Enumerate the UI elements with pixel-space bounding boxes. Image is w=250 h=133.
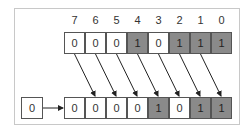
top-bit-2: 1 [169, 32, 190, 54]
bit-label-2: 2 [169, 13, 190, 27]
shift-in-bit: 0 [21, 97, 43, 119]
top-bit-5: 0 [106, 32, 127, 54]
bottom-bit-5: 0 [106, 97, 127, 119]
top-bit-7: 0 [64, 32, 85, 54]
bit-label-3: 3 [148, 13, 169, 27]
top-bit-1: 1 [190, 32, 211, 54]
top-bit-6: 0 [85, 32, 106, 54]
bit-label-1: 1 [190, 13, 211, 27]
bit-label-4: 4 [127, 13, 148, 27]
top-bit-4: 1 [127, 32, 148, 54]
bottom-bit-7: 0 [64, 97, 85, 119]
bit-label-5: 5 [106, 13, 127, 27]
bottom-bit-4: 0 [127, 97, 148, 119]
top-bit-3: 0 [148, 32, 169, 54]
top-bit-0: 1 [211, 32, 232, 54]
bit-label-7: 7 [64, 13, 85, 27]
bottom-bit-0: 1 [211, 97, 232, 119]
bottom-bit-2: 0 [169, 97, 190, 119]
bottom-bit-6: 0 [85, 97, 106, 119]
bit-label-6: 6 [85, 13, 106, 27]
bottom-bit-3: 1 [148, 97, 169, 119]
bit-label-0: 0 [211, 13, 232, 27]
bottom-bit-1: 1 [190, 97, 211, 119]
